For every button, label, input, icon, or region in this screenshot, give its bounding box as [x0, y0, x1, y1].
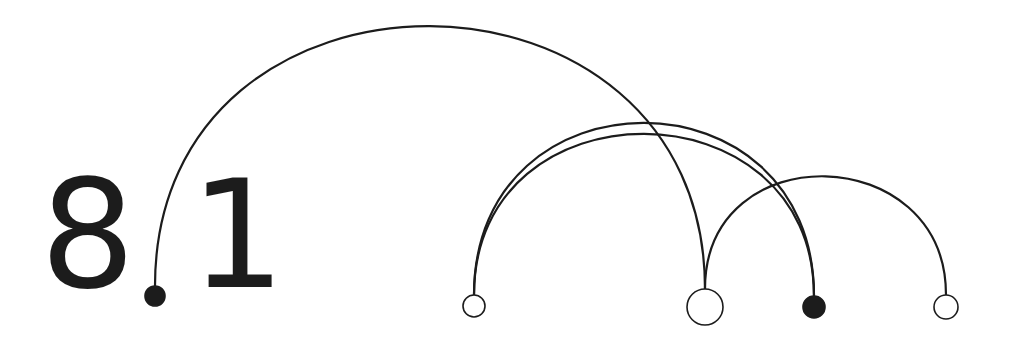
arc-group — [155, 26, 946, 296]
node-a-open-circle-icon — [463, 295, 485, 317]
node-d-open-circle-icon — [934, 295, 958, 319]
arc-graph — [0, 0, 1009, 346]
node-dot-filled-circle-icon — [145, 286, 165, 306]
arc-dot-b-0 — [155, 26, 705, 289]
arc-a-c-2 — [474, 134, 814, 296]
arc-a-c-1 — [474, 123, 814, 296]
node-group — [145, 286, 958, 325]
node-b-open-circle-icon — [687, 289, 723, 325]
arc-b-d-3 — [705, 176, 946, 295]
node-c-filled-circle-icon — [803, 296, 825, 318]
arc-diagram: 8 1 — [0, 0, 1009, 346]
